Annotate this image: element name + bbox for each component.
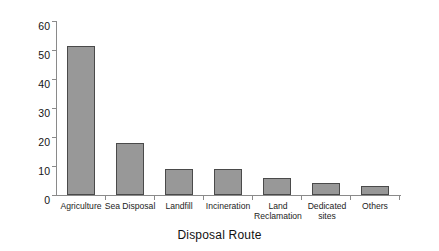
x-tickmark-4 [252,196,253,200]
x-tickmark-1 [105,196,106,200]
x-tick-label-sea-disposal: Sea Disposal [103,201,157,211]
bar-land-reclamation [263,178,291,195]
x-tickmark-2 [154,196,155,200]
y-tickmark-50 [52,50,56,51]
x-tickmark-6 [350,196,351,200]
x-tickmark-3 [203,196,204,200]
bar-agriculture [67,46,95,195]
y-axis-line [56,21,57,196]
y-tickmark-10 [52,166,56,167]
x-tick-label-land-reclamation: Land Reclamation [252,201,304,221]
bar-chart: Percentage 60 50 40 30 20 10 0 Agricultu… [0,0,439,251]
x-tick-label-landfill: Landfill [152,201,206,211]
y-tickmark-30 [52,108,56,109]
x-axis-title: Disposal Route [0,228,439,242]
bar-others [361,186,389,195]
bar-landfill [165,169,193,195]
x-tick-label-others: Others [348,201,402,211]
bar-dedicated-sites [312,183,340,195]
x-tick-label-agriculture: Agriculture [54,201,108,211]
bar-sea-disposal [116,143,144,195]
y-tickmark-40 [52,79,56,80]
x-tick-label-dedicated-sites: Dedicated sites [303,201,351,221]
bar-incineration [214,169,242,195]
x-tickmark-5 [301,196,302,200]
y-tickmark-60 [52,21,56,22]
x-tick-label-incineration: Incineration [201,201,255,211]
x-tickmark-7 [399,196,400,200]
y-tickmark-20 [52,137,56,138]
